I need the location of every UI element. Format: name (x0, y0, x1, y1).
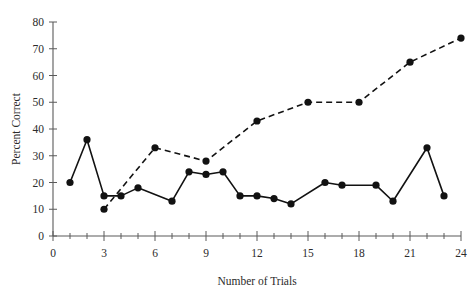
solid-series-point (202, 171, 209, 178)
y-tick-label: 50 (33, 96, 45, 108)
solid-series-point (168, 198, 175, 205)
y-tick-label: 60 (33, 70, 45, 82)
solid-series-point (219, 168, 226, 175)
y-tick-label: 0 (38, 230, 44, 242)
x-tick-label: 3 (101, 247, 107, 259)
x-tick-label: 12 (251, 247, 263, 259)
x-tick-label: 15 (302, 247, 314, 259)
solid-series-point (253, 192, 260, 199)
x-tick-label: 0 (50, 247, 56, 259)
y-axis-title: Percent Correct (10, 92, 22, 165)
solid-series-point (372, 182, 379, 189)
x-tick-label: 9 (203, 247, 209, 259)
solid-series-point (236, 192, 243, 199)
dashed-series-point (253, 117, 260, 124)
solid-series-point (185, 168, 192, 175)
solid-series-point (440, 192, 447, 199)
y-tick-label: 40 (33, 123, 45, 135)
dashed-series-point (355, 99, 362, 106)
solid-series-point (423, 144, 430, 151)
solid-series-point (389, 198, 396, 205)
dashed-series-point (202, 158, 209, 165)
solid-series-point (270, 195, 277, 202)
solid-series-point (100, 192, 107, 199)
solid-series-point (338, 182, 345, 189)
dashed-series-point (304, 99, 311, 106)
x-tick-label: 18 (353, 247, 365, 259)
solid-series-point (287, 200, 294, 207)
line-chart: 01020304050607080Percent Correct03691215… (0, 0, 474, 294)
dashed-series-point (457, 34, 464, 41)
y-tick-label: 20 (33, 177, 45, 189)
solid-series-point (66, 179, 73, 186)
x-tick-label: 21 (404, 247, 416, 259)
solid-series-point (321, 179, 328, 186)
chart-container: 01020304050607080Percent Correct03691215… (0, 0, 474, 294)
solid-series-point (83, 136, 90, 143)
y-tick-label: 70 (33, 43, 45, 55)
y-tick-label: 30 (33, 150, 45, 162)
solid-series-point (117, 192, 124, 199)
dashed-series-point (100, 206, 107, 213)
x-tick-label: 6 (152, 247, 158, 259)
y-tick-label: 80 (33, 16, 45, 28)
x-tick-label: 24 (455, 247, 467, 259)
dashed-series-point (151, 144, 158, 151)
x-axis-title: Number of Trials (217, 275, 297, 287)
y-tick-label: 10 (33, 203, 45, 215)
solid-series-point (134, 184, 141, 191)
dashed-series-point (406, 59, 413, 66)
